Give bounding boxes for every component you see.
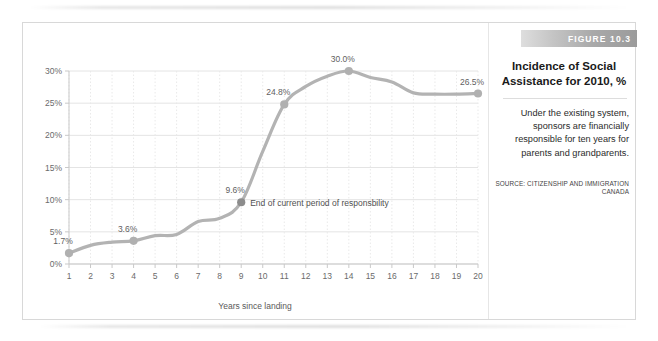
data-point-marker — [474, 89, 482, 97]
data-point-marker-highlight — [237, 198, 245, 206]
chart-annotations: End of current period of responsbility — [250, 198, 389, 208]
y-axis-tick-label: 30% — [45, 66, 62, 76]
x-axis-tick-label: 7 — [196, 271, 201, 281]
x-axis-tick-labels: 1234567891011121314151617181920 — [67, 271, 483, 281]
x-axis-tick-label: 11 — [280, 271, 289, 281]
data-point-label: 9.6% — [226, 185, 246, 195]
data-point-label: 3.6% — [118, 224, 138, 234]
data-point-marker — [129, 237, 137, 245]
x-axis-tick-label: 10 — [258, 271, 268, 281]
data-point-label: 26.5% — [460, 77, 485, 87]
x-axis-tick-label: 5 — [153, 271, 158, 281]
y-axis-tick-label: 25% — [45, 98, 62, 108]
line-chart: 0%5%10%15%20%25%30% 12345678910111213141… — [23, 23, 487, 319]
y-axis-tick-label: 10% — [45, 195, 62, 205]
chart-annotation-label: End of current period of responsbility — [250, 198, 389, 208]
figure-number-label: FIGURE 10.3 — [568, 34, 631, 44]
sidebar-divider — [503, 98, 627, 99]
x-axis-tick-label: 6 — [174, 271, 179, 281]
figure-sidebar: FIGURE 10.3 Incidence of Social Assistan… — [488, 23, 636, 319]
data-point-marker — [280, 100, 288, 108]
x-axis-ticks — [69, 264, 478, 268]
x-axis-tick-label: 17 — [409, 271, 419, 281]
chart-panel: 0%5%10%15%20%25%30% 12345678910111213141… — [23, 23, 487, 319]
data-point-label: 30.0% — [331, 54, 356, 64]
figure-description: Under the existing system, sponsors are … — [495, 107, 629, 160]
x-axis-tick-label: 18 — [430, 271, 440, 281]
data-point-marker — [65, 249, 73, 257]
x-axis-tick-label: 15 — [366, 271, 376, 281]
x-axis-tick-label: 19 — [452, 271, 462, 281]
x-axis-tick-label: 8 — [217, 271, 222, 281]
figure-container: 0%5%10%15%20%25%30% 12345678910111213141… — [0, 0, 658, 341]
x-axis-tick-label: 12 — [301, 271, 311, 281]
x-axis-tick-label: 9 — [239, 271, 244, 281]
page-shadow-bottom — [40, 325, 630, 328]
figure-number-bar: FIGURE 10.3 — [521, 30, 637, 47]
figure-title: Incidence of Social Assistance for 2010,… — [497, 59, 631, 89]
data-point-labels: 1.7%3.6%9.6%24.8%30.0%26.5% — [53, 54, 484, 246]
data-point-label: 24.8% — [266, 87, 291, 97]
x-axis-tick-label: 13 — [323, 271, 333, 281]
x-axis-title: Years since landing — [218, 301, 292, 311]
data-point-label: 1.7% — [53, 236, 73, 246]
x-axis-tick-label: 14 — [344, 271, 354, 281]
data-point-marker — [345, 67, 353, 75]
x-axis-tick-label: 20 — [473, 271, 483, 281]
y-axis-tick-label: 15% — [45, 163, 62, 173]
horizontal-gridlines — [69, 71, 478, 264]
figure-source: SOURCE: CITIZENSHIP AND IMMIGRATION CANA… — [495, 180, 629, 197]
page-shadow-top — [30, 6, 630, 9]
y-axis-tick-label: 20% — [45, 130, 62, 140]
x-axis-tick-label: 16 — [387, 271, 397, 281]
y-axis-tick-label: 0% — [50, 259, 63, 269]
x-axis-tick-label: 3 — [110, 271, 115, 281]
x-axis-tick-label: 1 — [67, 271, 72, 281]
x-axis-tick-label: 4 — [131, 271, 136, 281]
x-axis-tick-label: 2 — [88, 271, 93, 281]
